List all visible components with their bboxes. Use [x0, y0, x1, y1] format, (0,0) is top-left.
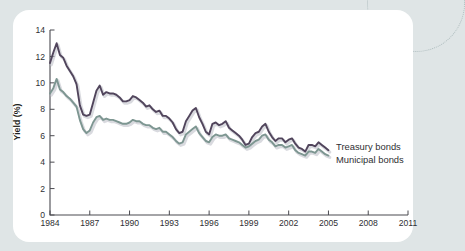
y-tick-label: 8 [40, 104, 45, 114]
y-tick-label: 12 [35, 52, 45, 62]
x-tick-label: 1993 [160, 218, 179, 228]
y-axis-title: Yield (%) [12, 104, 22, 141]
series-group [50, 43, 330, 157]
y-tick-label: 2 [40, 184, 45, 194]
y-axis-tick-labels: 02468101214 [35, 25, 45, 220]
x-tick-marks [50, 211, 408, 216]
x-tick-label: 1990 [120, 218, 139, 228]
y-tick-label: 14 [35, 25, 45, 35]
y-tick-label: 4 [40, 157, 45, 167]
series-label-municipal: Municipal bonds [336, 154, 404, 165]
x-tick-label: 1999 [239, 218, 258, 228]
x-axis-tick-labels: 1984198719901993199619992002200520082011 [40, 218, 417, 228]
y-tick-label: 6 [40, 131, 45, 141]
x-tick-label: 2008 [359, 218, 378, 228]
y-tick-label: 10 [35, 78, 45, 88]
x-tick-label: 2002 [279, 218, 298, 228]
series-label-treasury: Treasury bonds [336, 141, 401, 152]
y-tick-label: 0 [40, 210, 45, 220]
x-tick-label: 2005 [319, 218, 338, 228]
x-tick-label: 1987 [80, 218, 99, 228]
x-tick-label: 2011 [399, 218, 418, 228]
x-tick-label: 1996 [200, 218, 219, 228]
